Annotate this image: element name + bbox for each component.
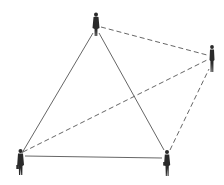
edge-bottom-left-right (23, 60, 207, 152)
edge-top-right (101, 27, 207, 55)
edge-top-bottom-right (99, 33, 164, 150)
dashed-edges (23, 27, 209, 152)
edge-bottom-right-right (170, 69, 209, 150)
person-figure-top (93, 13, 100, 37)
bag-icon (16, 165, 19, 169)
diagram-canvas (0, 0, 224, 185)
bag-icon (163, 162, 165, 166)
person-figure-bottom-right (163, 150, 170, 176)
person-figure-bottom-left (16, 149, 24, 175)
edge-bottom-left-bottom-right (25, 156, 162, 158)
edge-top-bottom-left (22, 33, 93, 153)
network-diagram (0, 0, 224, 185)
solid-edges (22, 33, 164, 158)
person-figure-right (210, 45, 215, 72)
